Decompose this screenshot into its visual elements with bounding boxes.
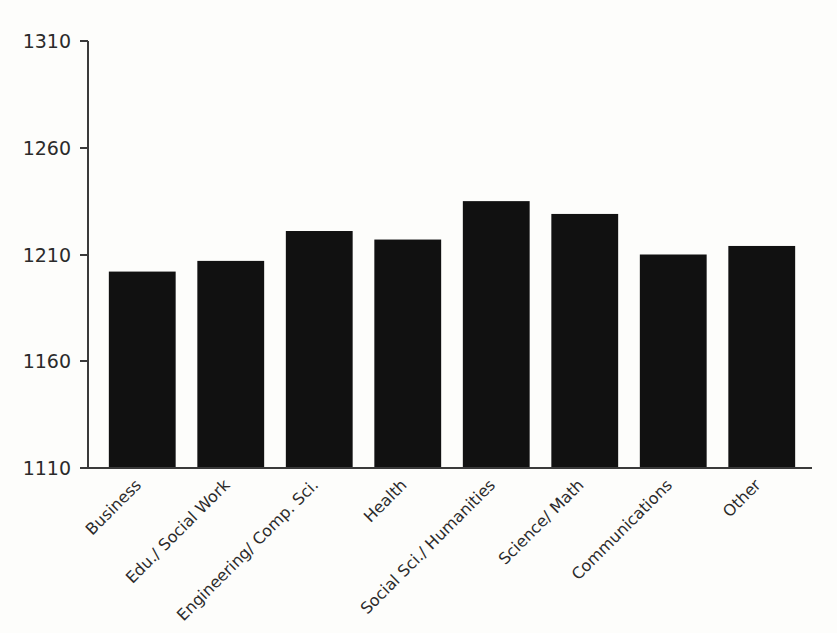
y-tick-label: 1210 [23,244,71,266]
bar [374,240,441,468]
x-axis-ticks: BusinessEdu./ Social WorkEngineering/ Co… [82,475,765,625]
bar [109,272,176,468]
y-tick-label: 1160 [23,350,71,372]
bar [197,261,264,468]
bar [728,246,795,468]
x-tick-label: Engineering/ Comp. Sci. [173,475,322,624]
bar-chart: 11101160121012601310 BusinessEdu./ Socia… [0,0,837,633]
bar [286,231,353,468]
x-tick-label: Science/ Math [495,475,588,568]
x-tick-label: Business [82,475,145,538]
chart-canvas: 11101160121012601310 BusinessEdu./ Socia… [0,0,837,633]
bar [463,201,530,468]
x-tick-label: Health [360,475,411,526]
y-tick-label: 1260 [23,137,71,159]
y-axis-ticks: 11101160121012601310 [23,30,88,479]
bar [551,214,618,468]
x-tick-label: Other [719,475,765,521]
bars-group [109,201,795,468]
y-tick-label: 1110 [23,457,71,479]
bar [640,255,707,469]
y-tick-label: 1310 [23,30,71,52]
